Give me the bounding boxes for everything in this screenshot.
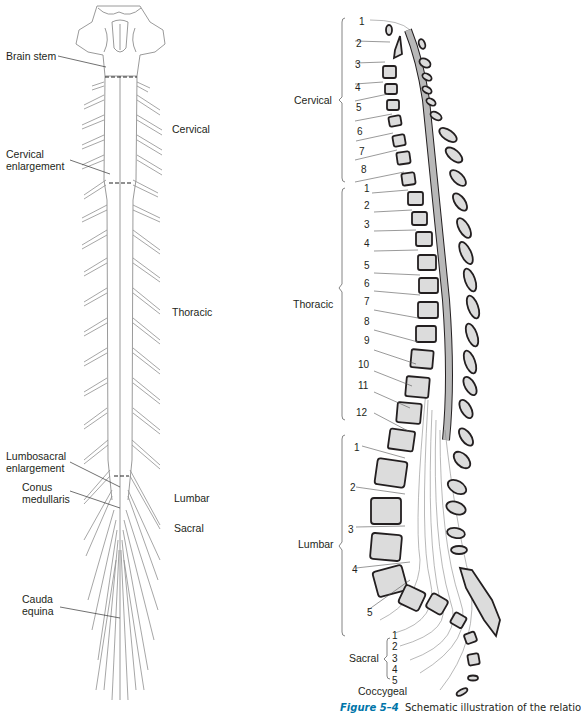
thoracic-num-1: 1 [364,183,370,194]
label-brain-stem: Brain stem [6,50,56,62]
region-cervical-left: Cervical [172,123,210,135]
cervical-num-2: 2 [356,38,362,49]
region-sacral-left: Sacral [174,522,204,534]
label-conus-line1: Conus [22,481,52,493]
thoracic-num-5: 5 [364,260,370,271]
label-cauda-line2: equina [22,605,54,617]
label-cervical-enlargement-line1: Cervical [6,148,44,160]
region-sacral-right: Sacral [349,652,379,664]
lumbar-num-4: 4 [352,564,358,575]
region-thoracic-left: Thoracic [172,306,212,318]
lumbar-num-3: 3 [348,524,354,535]
figure-label: Figure 5–4 [340,702,399,713]
lumbar-num-2: 2 [350,482,356,493]
label-cervical-enlargement-line2: enlargement [6,160,64,172]
sacral-num-5: 5 [392,675,398,686]
thoracic-num-4: 4 [364,238,370,249]
label-conus-line2: medullaris [22,493,70,505]
lumbar-num-1: 1 [354,442,360,453]
cervical-num-7: 7 [359,146,365,157]
label-cauda-line1: Cauda [22,593,53,605]
cervical-num-6: 6 [357,126,363,137]
region-lumbar-right: Lumbar [298,538,334,550]
thoracic-num-12: 12 [356,407,367,418]
sacral-num-1: 1 [392,630,398,641]
region-lumbar-left: Lumbar [174,492,210,504]
figure-caption: Figure 5–4 Schematic illustration of the… [340,702,581,713]
thoracic-num-6: 6 [364,278,370,289]
lumbar-num-5: 5 [367,607,373,618]
cervical-num-8: 8 [361,164,367,175]
thoracic-num-11: 11 [358,380,368,391]
region-coccygeal: Coccygeal [358,685,407,697]
cervical-num-4: 4 [355,82,361,93]
sacral-num-2: 2 [392,641,398,652]
sacral-num-4: 4 [392,664,398,675]
label-lumbosacral-enlargement-line2: enlargement [6,462,64,474]
cervical-num-5: 5 [356,102,362,113]
cervical-num-1: 1 [359,16,365,27]
thoracic-num-8: 8 [364,316,370,327]
thoracic-num-2: 2 [364,200,370,211]
sacral-num-3: 3 [392,653,398,664]
cervical-num-3: 3 [355,59,361,70]
thoracic-num-7: 7 [364,296,370,307]
figure-caption-text: Schematic illustration of the relatio [405,702,581,713]
region-thoracic-right: Thoracic [293,298,333,310]
thoracic-num-3: 3 [364,219,370,230]
thoracic-num-9: 9 [364,335,370,346]
label-lumbosacral-enlargement-line1: Lumbosacral [6,450,66,462]
region-cervical-right: Cervical [294,94,332,106]
thoracic-num-10: 10 [358,359,369,370]
